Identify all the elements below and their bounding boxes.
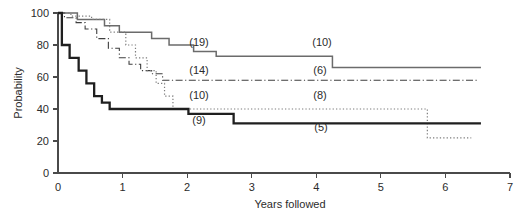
x-axis-title: Years followed: [254, 198, 325, 210]
at-risk-label: (5): [314, 121, 327, 133]
x-tick-label: 6: [442, 181, 448, 193]
x-tick-label: 5: [378, 181, 384, 193]
curve-curve-4: [58, 13, 481, 123]
at-risk-label: (10): [189, 89, 209, 101]
at-risk-label: (19): [189, 36, 209, 48]
x-tick-label: 2: [184, 181, 190, 193]
y-axis-title: Probability: [12, 67, 24, 119]
x-tick-marks: [123, 173, 510, 178]
x-tick-label: 4: [313, 181, 319, 193]
at-risk-label: (6): [313, 64, 326, 76]
curve-curve-1: [58, 13, 481, 67]
survival-plot: 020406080100 Probability 01234567 Years …: [0, 0, 526, 217]
kaplan-meier-figure: 020406080100 Probability 01234567 Years …: [0, 0, 526, 217]
y-tick-label: 40: [37, 103, 49, 115]
at-risk-label: (9): [192, 114, 205, 126]
y-tick-marks: [53, 13, 58, 173]
x-tick-label: 0: [55, 181, 61, 193]
x-tick-labels: 01234567: [55, 181, 513, 193]
y-tick-label: 0: [43, 167, 49, 179]
curve-curve-2: [58, 13, 478, 80]
y-axis-group: 020406080100 Probability: [12, 7, 58, 179]
x-axis-group: 01234567 Years followed: [55, 173, 513, 210]
at-risk-annotations: (19)(10)(14)(6)(10)(8)(9)(5): [189, 36, 332, 133]
at-risk-label: (10): [312, 36, 332, 48]
survival-curves: [58, 13, 481, 138]
y-tick-label: 60: [37, 71, 49, 83]
at-risk-label: (14): [189, 64, 209, 76]
y-tick-label: 100: [31, 7, 49, 19]
y-tick-label: 80: [37, 39, 49, 51]
at-risk-label: (8): [313, 89, 326, 101]
y-tick-label: 20: [37, 135, 49, 147]
x-tick-label: 7: [507, 181, 513, 193]
x-tick-label: 3: [249, 181, 255, 193]
x-tick-label: 1: [120, 181, 126, 193]
y-tick-labels: 020406080100: [31, 7, 49, 179]
